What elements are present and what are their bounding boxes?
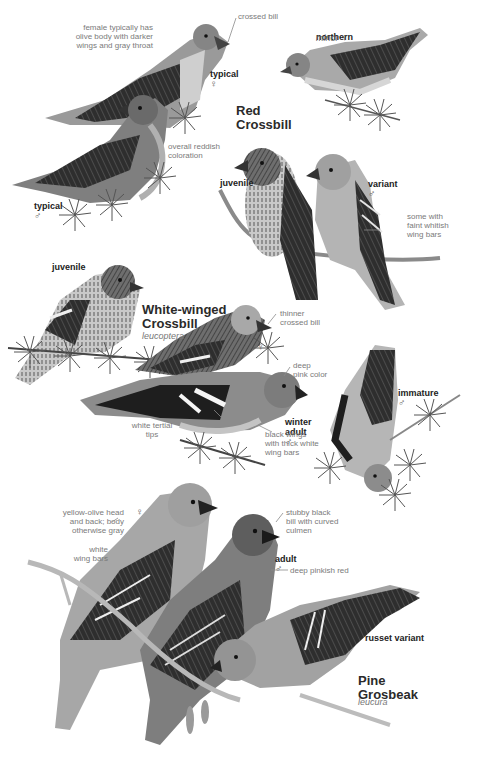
female-symbol-icon: ♀ <box>341 32 349 43</box>
annotation-white-tertial-tips: white tertial tips <box>122 421 182 439</box>
tag-red-crossbill-typical-male: typical ♂ <box>34 191 63 221</box>
tag-pine-grosbeak-female: ♀ <box>136 497 144 517</box>
scientific-name-leucura: leucura <box>358 697 388 707</box>
female-symbol-icon: ♀ <box>210 78 218 89</box>
field-guide-page: female typically has olive body with dar… <box>0 0 488 769</box>
female-symbol-icon: ♀ <box>136 506 144 517</box>
annotation-white-wing-bars: white wing bars <box>60 545 108 563</box>
scientific-name-leucoptera: leucoptera <box>142 331 184 341</box>
annotation-crossed-bill: crossed bill <box>238 12 278 21</box>
tag-white-winged-crossbill-immature-male: immature ♂ <box>398 378 439 408</box>
tag-pine-grosbeak-russet-variant: russet variant <box>365 633 424 643</box>
female-symbol-icon: ♀ <box>257 341 265 352</box>
annotation-deep-pink-color: deep pink color <box>293 361 327 379</box>
tag-red-crossbill-variant-male: variant ♂ <box>368 169 398 199</box>
tag-red-crossbill-typical-female: typical ♀ <box>210 59 239 89</box>
annotation-female-olive-body: female typically has olive body with dar… <box>55 23 153 50</box>
male-symbol-icon: ♂ <box>275 563 283 574</box>
subspecies-name: minor <box>316 33 339 43</box>
male-symbol-icon: ♂ <box>34 210 42 221</box>
tag-red-crossbill-northern-subtitle: minor ♀ <box>316 32 349 43</box>
annotation-black-wings-white-bars: black wings with thick white wing bars <box>265 430 319 457</box>
tag-white-winged-crossbill-female: ♀ <box>257 332 265 352</box>
annotation-yellow-olive-head: yellow-olive head and back; body otherwi… <box>40 508 124 535</box>
annotation-overall-reddish: overall reddish coloration <box>168 142 220 160</box>
male-symbol-icon: ♂ <box>368 188 376 199</box>
annotation-deep-pinkish-red: deep pinkish red <box>290 566 349 575</box>
tag-white-winged-crossbill-juvenile: juvenile <box>52 262 86 272</box>
male-symbol-icon: ♂ <box>398 397 406 408</box>
annotation-thinner-crossed-bill: thinner crossed bill <box>280 309 320 327</box>
annotation-faint-whitish-wing-bars: some with faint whitish wing bars <box>407 212 449 239</box>
tag-red-crossbill-juvenile: juvenile <box>220 178 254 188</box>
species-title-white-winged-crossbill: White-winged Crossbill <box>142 303 227 331</box>
annotation-stubby-black-bill: stubby black bill with curved culmen <box>286 508 338 535</box>
species-title-red-crossbill: Red Crossbill <box>236 104 292 132</box>
